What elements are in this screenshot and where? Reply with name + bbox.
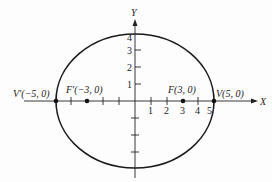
focus-right-point — [181, 99, 186, 104]
vertex-left-point — [54, 99, 59, 104]
y-tick-1: 1 — [127, 79, 132, 90]
focus-right-label: F(3, 0) — [167, 84, 196, 96]
x-tick-3: 3 — [180, 105, 185, 116]
vertex-right-label: V(5, 0) — [216, 88, 244, 100]
ellipse-diagram: Y X 4 3 2 1 1 2 3 4 5 V′(−5, 0) F′(−3, 0… — [0, 0, 272, 182]
x-axis-label: X — [259, 96, 267, 107]
y-tick-2: 2 — [127, 62, 132, 73]
vertex-right-point — [212, 99, 217, 104]
y-axis-label: Y — [131, 7, 138, 18]
y-axis-arrow-icon — [133, 19, 138, 26]
x-tick-4: 4 — [195, 105, 200, 116]
x-tick-2: 2 — [164, 105, 169, 116]
y-tick-4: 4 — [127, 32, 132, 43]
y-tick-3: 3 — [127, 45, 132, 56]
focus-left-label: F′(−3, 0) — [65, 84, 103, 96]
x-tick-5: 5 — [207, 105, 212, 116]
vertex-left-label: V′(−5, 0) — [13, 88, 50, 100]
x-tick-1: 1 — [148, 105, 153, 116]
focus-left-point — [85, 99, 90, 104]
x-axis-arrow-icon — [251, 99, 258, 104]
